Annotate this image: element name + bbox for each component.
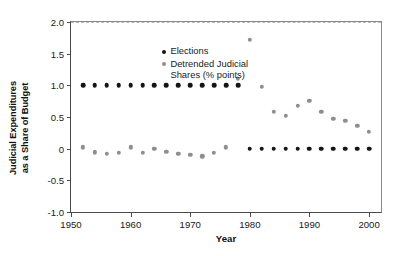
data-point-elections (81, 83, 86, 88)
legend-item-detrended: Detrended Judicial Shares (% points) (162, 58, 290, 81)
data-point-elections (128, 83, 133, 88)
data-point-elections (116, 83, 121, 88)
plot-area: -1.0-0.500.51.01.52.0 195019601970198019… (70, 21, 382, 213)
data-point-elections (224, 83, 229, 88)
data-point-detrended (224, 145, 228, 149)
data-point-detrended (331, 117, 335, 121)
y-axis-title-line-2: as a Share of Budget (20, 81, 32, 175)
legend-label-elections: Elections (170, 45, 208, 57)
x-axis-tick-label: 1960 (120, 219, 141, 230)
legend-marker-detrended-icon (162, 62, 166, 66)
data-point-elections (271, 146, 276, 151)
data-point-elections (104, 83, 109, 88)
x-axis-tick (369, 212, 370, 217)
x-axis-tick-label: 1980 (239, 219, 260, 230)
data-point-detrended (81, 145, 85, 149)
data-point-detrended (140, 151, 144, 155)
y-axis-tick-label: 0.5 (51, 112, 64, 123)
data-point-detrended (295, 103, 299, 107)
x-axis-title: Year (70, 233, 382, 244)
y-axis-tick-label: 2.0 (51, 17, 64, 28)
data-point-detrended (128, 145, 132, 149)
x-axis-tick-label: 2000 (358, 219, 379, 230)
data-point-elections (259, 146, 264, 151)
legend-marker-elections-icon (162, 50, 166, 54)
legend-item-elections: Elections (162, 45, 290, 57)
data-point-elections (236, 83, 241, 88)
data-point-detrended (367, 129, 371, 133)
data-point-elections (152, 83, 157, 88)
y-axis-tick (67, 117, 72, 118)
data-point-detrended (200, 154, 204, 158)
data-point-detrended (355, 124, 359, 128)
data-point-elections (140, 83, 145, 88)
data-point-detrended (260, 84, 264, 88)
y-axis-title: Judicial Expenditures as a Share of Budg… (0, 0, 40, 256)
data-point-elections (93, 83, 98, 88)
data-point-elections (295, 146, 300, 151)
x-axis-tick (131, 212, 132, 217)
x-axis-tick-label: 1990 (299, 219, 320, 230)
y-axis-tick-label: 0 (59, 143, 64, 154)
data-point-elections (212, 83, 217, 88)
data-point-detrended (319, 110, 323, 114)
y-axis-tick (67, 22, 72, 23)
x-axis-tick-label: 1950 (60, 219, 81, 230)
legend-label-detrended-line-2: Shares (% points) (170, 69, 245, 80)
x-axis-tick (71, 212, 72, 217)
data-point-elections (343, 146, 348, 151)
data-point-detrended (164, 150, 168, 154)
data-point-elections (188, 83, 193, 88)
x-axis-tick (190, 212, 191, 217)
y-axis-tick-label: -1.0 (47, 207, 64, 218)
data-point-elections (319, 146, 324, 151)
x-axis-tick (250, 212, 251, 217)
data-point-elections (355, 146, 360, 151)
data-point-elections (331, 146, 336, 151)
y-axis-tick (67, 85, 72, 86)
data-point-detrended (152, 146, 156, 150)
data-point-detrended (93, 150, 97, 154)
zero-reference-line (71, 22, 381, 23)
data-point-elections (176, 83, 181, 88)
data-point-detrended (212, 151, 216, 155)
y-axis-tick (67, 54, 72, 55)
data-point-elections (200, 83, 205, 88)
data-point-elections (248, 146, 253, 151)
chart-legend: Elections Detrended Judicial Shares (% p… (162, 45, 290, 82)
y-axis-tick-label: -0.5 (47, 175, 64, 186)
data-point-detrended (307, 98, 311, 102)
y-axis-tick (67, 180, 72, 181)
data-point-detrended (105, 152, 109, 156)
data-point-elections (283, 146, 288, 151)
data-point-detrended (343, 119, 347, 123)
data-point-elections (307, 146, 312, 151)
x-axis-tick-label: 1970 (180, 219, 201, 230)
data-point-detrended (248, 38, 252, 42)
y-axis-tick (67, 149, 72, 150)
data-point-elections (164, 83, 169, 88)
data-point-detrended (116, 151, 120, 155)
y-axis-tick-label: 1.0 (51, 80, 64, 91)
data-point-detrended (188, 153, 192, 157)
data-point-detrended (176, 152, 180, 156)
y-axis-title-line-1: Judicial Expenditures (8, 81, 20, 175)
legend-label-detrended-line-1: Detrended Judicial (170, 58, 248, 69)
chart-figure: Judicial Expenditures as a Share of Budg… (0, 0, 406, 256)
y-axis-tick-label: 1.5 (51, 48, 64, 59)
data-point-elections (367, 146, 372, 151)
x-axis-tick (309, 212, 310, 217)
data-point-detrended (283, 114, 287, 118)
data-point-detrended (271, 110, 275, 114)
